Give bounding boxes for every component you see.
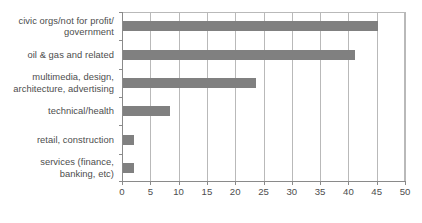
bar: [123, 50, 355, 60]
y-axis-label-3: technical/health: [0, 105, 114, 116]
x-tick-0: [122, 181, 123, 185]
y-axis-label-4: retail, construction: [0, 134, 114, 145]
y-tick-0: [119, 12, 122, 13]
y-axis-label-0: civic orgs/not for profit/ government: [0, 15, 114, 38]
x-tick-45: [377, 181, 378, 185]
x-tick-10: [179, 181, 180, 185]
gridline-40: [348, 12, 349, 182]
gridline-45: [377, 12, 378, 182]
y-tick-2: [119, 69, 122, 70]
x-tick-label-15: 15: [202, 186, 213, 198]
gridline-30: [292, 12, 293, 182]
x-tick-25: [264, 181, 265, 185]
y-axis-label-5: services (finance, banking, etc): [0, 156, 114, 179]
y-axis-label-1: oil & gas and related: [0, 49, 114, 60]
y-axis-category-labels: civic orgs/not for profit/ government oi…: [0, 12, 118, 182]
x-tick-label-35: 35: [315, 186, 326, 198]
bar: [123, 163, 134, 173]
gridline-0: [122, 12, 123, 182]
x-tick-15: [207, 181, 208, 185]
x-tick-40: [348, 181, 349, 185]
x-tick-30: [292, 181, 293, 185]
y-tick-4: [119, 125, 122, 126]
x-tick-label-40: 40: [343, 186, 354, 198]
x-tick-label-30: 30: [286, 186, 297, 198]
gridline-10: [179, 12, 180, 182]
gridline-35: [320, 12, 321, 182]
x-tick-label-45: 45: [371, 186, 382, 198]
plot-area: [122, 12, 405, 182]
x-tick-label-10: 10: [173, 186, 184, 198]
bar: [123, 135, 134, 145]
y-tick-end: [119, 181, 122, 182]
gridline-25: [264, 12, 265, 182]
x-tick-label-20: 20: [230, 186, 241, 198]
x-tick-label-5: 5: [148, 186, 153, 198]
y-tick-5: [119, 154, 122, 155]
y-tick-3: [119, 97, 122, 98]
y-tick-1: [119, 40, 122, 41]
x-tick-50: [405, 181, 406, 185]
gridline-5: [150, 12, 151, 182]
x-tick-35: [320, 181, 321, 185]
y-axis-label-2: multimedia, design, architecture, advert…: [0, 71, 114, 94]
x-tick-label-0: 0: [119, 186, 124, 198]
x-tick-20: [235, 181, 236, 185]
gridline-50: [405, 12, 406, 182]
bar: [123, 78, 256, 88]
x-tick-5: [150, 181, 151, 185]
bar-chart: civic orgs/not for profit/ government oi…: [0, 0, 422, 223]
x-tick-label-25: 25: [258, 186, 269, 198]
bar: [123, 21, 378, 31]
gridline-20: [235, 12, 236, 182]
gridline-15: [207, 12, 208, 182]
x-axis-tick-labels: 05101520253035404550: [122, 186, 412, 202]
x-tick-label-50: 50: [400, 186, 411, 198]
bar: [123, 106, 170, 116]
